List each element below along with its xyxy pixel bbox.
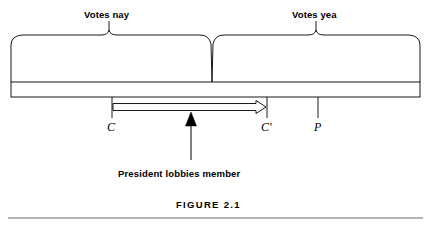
policy-space-bar — [11, 82, 420, 97]
figure-container: Votes nay Votes yea C C' P President lob… — [0, 0, 431, 227]
brace-votes-nay — [11, 30, 212, 82]
brace-label-votes-yea: Votes yea — [292, 10, 337, 20]
point-label-c-prime: C' — [261, 121, 272, 133]
brace-votes-yea — [212, 30, 420, 82]
preference-shift-arrow — [113, 101, 266, 114]
figure-caption: FIGURE 2.1 — [176, 200, 241, 210]
point-label-c: C — [107, 121, 115, 133]
point-label-p: P — [314, 121, 321, 133]
lobby-arrow-label: President lobbies member — [118, 169, 240, 179]
figure-graphics — [0, 0, 431, 227]
lobby-arrow-head — [186, 112, 197, 126]
brace-label-votes-nay: Votes nay — [84, 10, 129, 20]
